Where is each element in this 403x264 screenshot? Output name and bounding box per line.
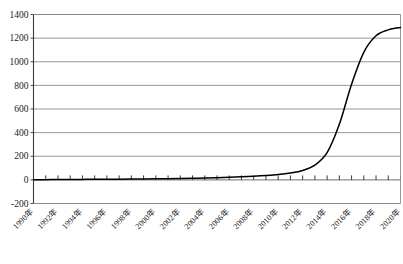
y-axis-tick-label: 1000 [10,57,29,67]
y-axis-tick-label: 0 [24,175,29,185]
y-axis-tick-label: -200 [11,199,29,209]
y-axis-tick-label: 400 [14,128,29,138]
y-axis-tick-label: 600 [14,104,29,114]
chart-plot: 1400120010008006004002000-200 1990年1992年… [0,0,403,264]
y-axis-tick-label: 1200 [10,33,29,43]
y-axis-tick-label: 1400 [10,10,29,20]
y-axis-tick-label: 200 [14,151,29,161]
y-axis-tick-label: 800 [14,81,29,91]
chart-figure: 1400120010008006004002000-200 1990年1992年… [0,0,403,264]
